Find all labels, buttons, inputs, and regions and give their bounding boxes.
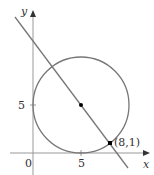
center-point bbox=[79, 103, 83, 107]
x-tick-label: 5 bbox=[78, 157, 85, 170]
origin-label: 0 bbox=[25, 157, 32, 170]
point-label: (8,1) bbox=[114, 136, 140, 149]
point-8-1 bbox=[108, 141, 112, 145]
y-axis-label: y bbox=[20, 5, 28, 18]
line bbox=[15, 17, 128, 168]
y-axis-arrow-icon bbox=[30, 10, 36, 17]
y-tick-label: 5 bbox=[18, 99, 25, 112]
x-axis-label: x bbox=[143, 158, 150, 171]
x-axis-arrow-icon bbox=[143, 150, 150, 156]
diagram: y x 0 5 5 (8,1) bbox=[0, 0, 154, 175]
